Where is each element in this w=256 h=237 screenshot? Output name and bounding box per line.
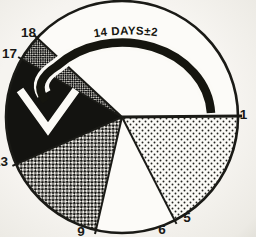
day-label-13: 13 [0, 154, 8, 169]
day-label-6: 6 [158, 222, 166, 237]
day-label-1: 1 [240, 107, 248, 122]
day-label-9: 9 [77, 224, 85, 237]
day-label-17: 17 [2, 46, 17, 61]
figure-page: 14 DAYS±2 1 5 6 9 13 17 18 [0, 0, 256, 237]
boundary-day-1 [122, 116, 242, 117]
day-label-18: 18 [21, 25, 37, 40]
cycle-wheel-diagram: 14 DAYS±2 1 5 6 9 13 17 18 [0, 0, 256, 237]
day-label-5: 5 [183, 210, 191, 225]
